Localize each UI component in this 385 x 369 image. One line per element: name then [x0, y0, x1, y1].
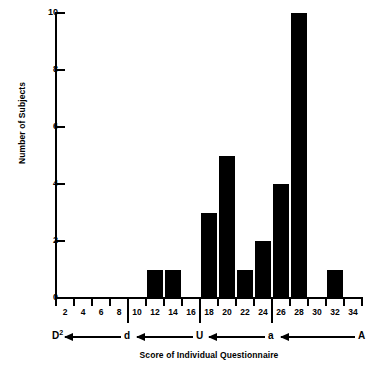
category-arrow-D [65, 336, 121, 338]
bar [327, 270, 343, 299]
category-arrow-U [209, 336, 265, 338]
category-label-d: d [124, 330, 130, 342]
y-tick-4 [57, 183, 65, 185]
y-tick-10 [57, 12, 65, 14]
category-arrow-a [281, 336, 355, 338]
x-tick-23 [253, 299, 255, 306]
x-tick-29 [307, 299, 309, 306]
bar [291, 13, 307, 298]
y-tick-label: 10 [28, 8, 58, 17]
y-tick-label: 2 [28, 236, 58, 245]
bar [147, 270, 163, 299]
x-tick-27 [289, 299, 291, 306]
x-tick-7 [109, 299, 111, 306]
x-tick-11 [145, 299, 147, 306]
bar [237, 270, 253, 299]
bar [255, 241, 271, 298]
x-tick-3 [73, 299, 75, 306]
category-label-U: U [196, 330, 203, 342]
y-axis-title: Number of Subjects [17, 63, 27, 183]
x-tick-13 [163, 299, 165, 306]
category-arrow-d [137, 336, 193, 338]
x-tick-31 [325, 299, 327, 306]
bar [201, 213, 217, 299]
category-label-D: D2 [52, 330, 63, 342]
questionnaire-category-scale: D2dUaA [0, 330, 385, 346]
x-tick-5 [91, 299, 93, 306]
x-tick-end [361, 299, 363, 306]
y-tick-8 [57, 69, 65, 71]
y-tick-label: 8 [28, 65, 58, 74]
y-tick-2 [57, 240, 65, 242]
x-tick-1 [55, 299, 57, 306]
bar [165, 270, 181, 299]
x-axis-line [55, 297, 363, 299]
y-tick-label: 6 [28, 122, 58, 131]
y-tick-label: 0 [28, 293, 58, 302]
x-tick-33 [343, 299, 345, 306]
y-axis-line [55, 12, 57, 299]
x-axis-title: Score of Individual Questionnaire [55, 350, 363, 360]
x-tick-19 [217, 299, 219, 306]
x-tick-15 [181, 299, 183, 306]
y-tick-6 [57, 126, 65, 128]
x-tick-21 [235, 299, 237, 306]
histogram-chart: Number of Subjects 0246810 2468101214161… [0, 0, 385, 369]
category-label-A: A [358, 330, 365, 342]
category-label-a: a [268, 330, 274, 342]
bar [219, 156, 235, 299]
x-tick-label: 34 [341, 307, 365, 317]
bar [273, 184, 289, 298]
y-tick-label: 4 [28, 179, 58, 188]
